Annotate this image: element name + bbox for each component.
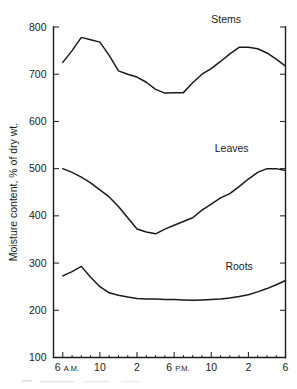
- series-line-stems: [63, 37, 286, 93]
- y-tick-label: 300: [29, 257, 47, 269]
- y-axis-ticks-right: [280, 27, 286, 310]
- y-tick-label: 400: [29, 209, 47, 221]
- y-axis-ticks: [54, 27, 60, 310]
- y-tick-label: 200: [29, 304, 47, 316]
- x-tick-label: 2: [245, 361, 251, 373]
- series-label-stems: Stems: [211, 13, 241, 25]
- y-tick-label: 700: [29, 68, 47, 80]
- y-tick-label: 100: [29, 351, 47, 363]
- line-chart: 100200300400500600700800 6A.M.1026P.M.10…: [0, 0, 297, 389]
- scan-artifacts: [22, 380, 140, 382]
- y-axis-tick-labels: 100200300400500600700800: [29, 21, 47, 364]
- x-tick-label: 6: [166, 361, 172, 373]
- x-axis-ticks: [63, 352, 286, 358]
- x-tick-label-period: A.M.: [64, 364, 79, 373]
- chart-figure: 100200300400500600700800 6A.M.1026P.M.10…: [0, 0, 297, 389]
- x-tick-label: 2: [134, 361, 140, 373]
- x-tick-label: 6: [55, 361, 61, 373]
- x-axis-tick-labels: 6A.M.1026P.M.1026: [55, 361, 289, 373]
- x-tick-label-period: P.M.: [175, 364, 189, 373]
- axis-frame: [54, 27, 286, 358]
- y-tick-label: 500: [29, 162, 47, 174]
- series-line-leaves: [63, 169, 286, 234]
- series-label-leaves: Leaves: [215, 142, 249, 154]
- y-axis-title: Moisture content, % of dry wt.: [7, 123, 19, 261]
- series-label-roots: Roots: [225, 260, 252, 272]
- x-tick-label: 10: [205, 361, 217, 373]
- y-tick-label: 600: [29, 115, 47, 127]
- x-tick-label: 10: [94, 361, 106, 373]
- x-tick-label: 6: [283, 361, 289, 373]
- y-tick-label: 800: [29, 21, 47, 33]
